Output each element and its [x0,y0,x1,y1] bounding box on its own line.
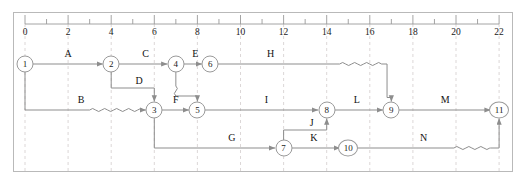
activity-label-H: H [267,48,274,59]
dummy-arrow-4-5-head [176,96,198,102]
activity-label-B: B [78,94,85,105]
event-node-9: 9 [383,102,400,119]
event-node-3: 3 [146,102,163,119]
event-node-6: 6 [202,56,219,73]
activity-arrows-group [25,63,499,150]
activity-label-G: G [228,132,235,143]
activity-arrow-N-float [454,147,491,150]
activity-label-I: I [265,94,268,105]
activity-label-L: L [354,94,360,105]
activity-arrow-D [111,72,154,102]
activity-label-C: C [142,48,149,59]
axis-tick-label-14: 14 [322,27,332,37]
activity-label-D: D [136,75,143,86]
activity-label-F: F [173,94,179,105]
activity-label-K: K [310,132,317,143]
event-node-11: 11 [489,102,509,119]
activity-label-M: M [441,94,450,105]
activity-arrow-N-head [490,119,499,149]
axis-tick-label-4: 4 [109,27,114,37]
ruler-group [25,15,499,24]
axis-tick-label-16: 16 [365,27,375,37]
axis-tick-label-6: 6 [152,27,157,37]
activity-arrow-B-float [90,109,146,112]
axis-tick-label-20: 20 [451,27,461,37]
activity-label-N: N [420,132,427,143]
event-node-7: 7 [275,140,292,157]
activity-label-E: E [192,48,198,59]
event-node-1: 1 [17,56,34,73]
event-node-2: 2 [103,56,120,73]
activity-arrow-H-float [340,63,387,66]
event-node-8: 8 [318,102,335,119]
event-node-5: 5 [189,102,206,119]
activity-label-A: A [64,48,71,59]
gridlines-group [25,24,499,171]
axis-tick-label-18: 18 [408,27,418,37]
activity-arrow-G [154,118,275,149]
axis-tick-label-10: 10 [236,27,246,37]
network-diagram-canvas: 0246810121416182022 1246358911710 ACEHBD… [0,0,527,184]
axis-tick-label-22: 22 [494,27,504,37]
activity-arrow-H-drop [387,64,391,102]
axis-tick-label-0: 0 [23,27,28,37]
activity-arrow-J [284,119,327,141]
event-node-10: 10 [338,140,358,157]
axis-tick-label-8: 8 [195,27,200,37]
axis-tick-label-12: 12 [279,27,289,37]
activity-label-J: J [310,117,314,128]
axis-tick-label-2: 2 [66,27,71,37]
event-node-4: 4 [167,56,184,73]
network-graphics [0,0,527,184]
